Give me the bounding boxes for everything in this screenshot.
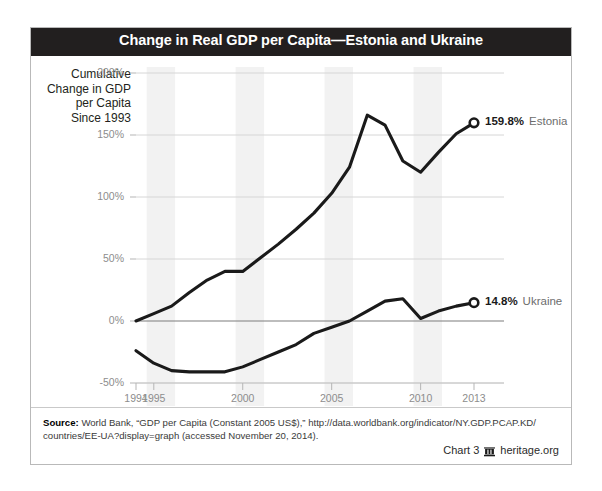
plot-area: Cumulative Change in GDP per Capita Sinc… <box>31 56 571 406</box>
chart-number: Chart 3 <box>443 444 479 456</box>
x-axis-tick-label: 2013 <box>454 392 494 404</box>
y-axis-tick-label: 150% <box>84 128 124 140</box>
heritage-building-icon <box>484 446 495 457</box>
chart-title-bar: Change in Real GDP per Capita—Estonia an… <box>31 28 571 56</box>
y-axis-tick-label: 100% <box>84 190 124 202</box>
source-divider <box>31 407 571 408</box>
series-endpoint-label-estonia: 159.8%Estonia <box>485 115 567 127</box>
x-axis-tick-label: 1995 <box>134 392 174 404</box>
x-axis-tick-label: 2010 <box>401 392 441 404</box>
heritage-site-label: heritage.org <box>500 444 559 456</box>
source-label: Source: <box>43 417 79 428</box>
chart-footer: Chart 3 heritage.org <box>443 444 559 456</box>
page-title: Change in Real GDP per Capita—Estonia an… <box>31 32 571 48</box>
series-endpoint-label-ukraine: 14.8%Ukraine <box>485 295 562 307</box>
y-axis-tick-label: -50% <box>84 376 124 388</box>
source-note: Source: World Bank, “GDP per Capita (Con… <box>43 416 559 442</box>
y-axis-tick-label: 0% <box>84 314 124 326</box>
y-axis-tick-label: 50% <box>84 252 124 264</box>
series-name: Ukraine <box>523 295 563 307</box>
series-name: Estonia <box>529 115 567 127</box>
chart-card: Change in Real GDP per Capita—Estonia an… <box>30 27 572 465</box>
source-text: World Bank, “GDP per Capita (Constant 20… <box>43 417 536 441</box>
x-axis-tick-label: 2000 <box>223 392 263 404</box>
chart-svg <box>31 56 571 406</box>
series-value: 14.8% <box>485 295 518 307</box>
series-value: 159.8% <box>485 115 524 127</box>
y-axis-tick-label: 200% <box>84 66 124 78</box>
x-axis-tick-label: 2005 <box>312 392 352 404</box>
